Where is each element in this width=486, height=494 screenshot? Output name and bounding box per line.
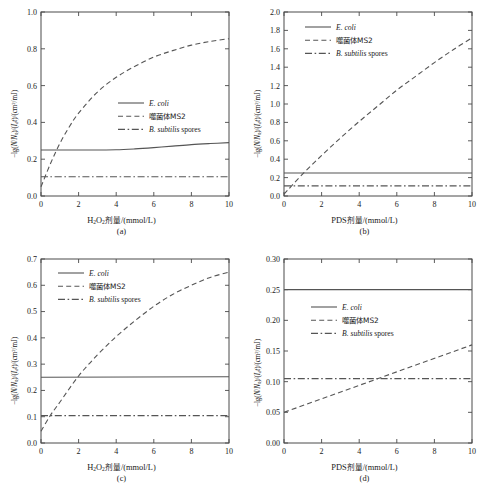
- y-tick-label: 0.05: [266, 408, 280, 417]
- x-tick-label: 8: [432, 447, 436, 456]
- series-line-ecoli: [41, 377, 229, 378]
- y-tick-label: 0.0: [270, 192, 280, 201]
- x-tick-label: 6: [152, 200, 156, 209]
- subplot-a: 02468100.00.20.40.60.81.0E. coli噬菌体MS2B.…: [0, 0, 243, 247]
- legend-label-spores: B. subtilis spores: [89, 295, 141, 304]
- x-tick-label: 2: [320, 447, 324, 456]
- y-tick-label: 0.8: [27, 45, 37, 54]
- x-tick-label: 6: [395, 447, 399, 456]
- y-tick-label: 0.2: [27, 155, 37, 164]
- y-tick-label: 0.3: [27, 360, 37, 369]
- legend-label-ecoli: E. coli: [341, 303, 362, 312]
- y-tick-label: 0.6: [27, 281, 37, 290]
- y-tick-label: 0.2: [27, 386, 37, 395]
- x-axis-label-a: H2O2剂量/(mmol/L): [0, 214, 243, 225]
- y-tick-label: 0.10: [266, 378, 280, 387]
- y-tick-label: 0.6: [27, 82, 37, 91]
- plot-area-b: 02468100.00.20.40.60.81.01.21.41.61.82.0…: [243, 0, 486, 247]
- y-axis-label-b: −lg(N/N0)/(Idt)/(cm2/mJ): [254, 90, 262, 158]
- x-tick-label: 4: [114, 200, 118, 209]
- y-axis-label-d: −lg(N/N0)/(Idt)/(cm2/mJ): [254, 339, 262, 407]
- y-tick-label: 0.00: [266, 439, 280, 448]
- y-tick-label: 0.1: [27, 413, 37, 422]
- panel-label-b: (b): [243, 227, 486, 236]
- y-tick-label: 2.0: [270, 8, 280, 17]
- legend-label-spores: B. subtilis spores: [342, 329, 394, 338]
- y-axis-label-c: −lg(N/N0)/(Idt)/(cm2/mJ): [11, 337, 19, 405]
- x-tick-label: 8: [189, 200, 193, 209]
- legend-label-spores: B. subtilis spores: [336, 49, 388, 58]
- legend-label-ms2: 噬菌体MS2: [149, 112, 186, 121]
- y-tick-label: 1.8: [270, 26, 280, 35]
- y-tick-label: 0.2: [270, 174, 280, 183]
- y-tick-label: 1.0: [270, 100, 280, 109]
- x-tick-label: 8: [189, 447, 193, 456]
- x-tick-label: 4: [114, 447, 118, 456]
- x-tick-label: 10: [225, 200, 233, 209]
- legend-label-spores: B. subtilis spores: [149, 125, 201, 134]
- y-tick-label: 0.0: [27, 192, 37, 201]
- y-tick-label: 0.20: [266, 316, 280, 325]
- subplot-c: 02468100.00.10.20.30.40.50.60.7E. coli噬菌…: [0, 247, 243, 494]
- y-tick-label: 0.5: [27, 307, 37, 316]
- subplot-b: 02468100.00.20.40.60.81.01.21.41.61.82.0…: [243, 0, 486, 247]
- y-tick-label: 0.4: [27, 118, 37, 127]
- x-tick-label: 0: [282, 200, 286, 209]
- y-tick-label: 0.30: [266, 255, 280, 264]
- x-tick-label: 10: [468, 200, 476, 209]
- x-axis-label-d: PDS剂量/(mmol/L): [243, 461, 486, 472]
- panel-label-a: (a): [0, 227, 243, 236]
- y-tick-label: 1.0: [27, 8, 37, 17]
- plot-area-c: 02468100.00.10.20.30.40.50.60.7E. coli噬菌…: [0, 247, 243, 494]
- legend-label-ms2: 噬菌体MS2: [342, 316, 379, 325]
- panel-label-d: (d): [243, 474, 486, 483]
- y-tick-label: 1.2: [270, 82, 280, 91]
- y-tick-label: 0.25: [266, 286, 280, 295]
- x-tick-label: 4: [357, 447, 361, 456]
- y-axis-label-a: −lg(N/N0)/(Idt)/(cm2/mJ): [11, 90, 19, 158]
- x-tick-label: 2: [77, 200, 81, 209]
- panel-label-c: (c): [0, 474, 243, 483]
- x-tick-label: 8: [432, 200, 436, 209]
- legend-label-ms2: 噬菌体MS2: [336, 36, 373, 45]
- figure-container: 02468100.00.20.40.60.81.0E. coli噬菌体MS2B.…: [0, 0, 486, 494]
- x-tick-label: 10: [225, 447, 233, 456]
- y-tick-label: 0.7: [27, 255, 37, 264]
- y-tick-label: 0.0: [27, 439, 37, 448]
- series-line-ecoli: [41, 143, 229, 150]
- x-tick-label: 2: [77, 447, 81, 456]
- series-line-ms2: [41, 39, 229, 187]
- y-tick-label: 0.4: [270, 155, 280, 164]
- legend-label-ms2: 噬菌体MS2: [89, 282, 126, 291]
- legend-label-ecoli: E. coli: [88, 269, 109, 278]
- x-axis-label-c: H2O2剂量/(mmol/L): [0, 461, 243, 472]
- y-tick-label: 1.6: [270, 45, 280, 54]
- x-tick-label: 0: [39, 447, 43, 456]
- x-tick-label: 6: [395, 200, 399, 209]
- x-tick-label: 4: [357, 200, 361, 209]
- subplot-d: 02468100.000.050.100.150.200.250.30E. co…: [243, 247, 486, 494]
- y-tick-label: 1.4: [270, 63, 280, 72]
- legend-label-ecoli: E. coli: [148, 99, 169, 108]
- x-tick-label: 10: [468, 447, 476, 456]
- x-tick-label: 2: [320, 200, 324, 209]
- series-line-ms2: [284, 38, 472, 194]
- x-tick-label: 0: [39, 200, 43, 209]
- x-tick-label: 6: [152, 447, 156, 456]
- plot-area-d: 02468100.000.050.100.150.200.250.30E. co…: [243, 247, 486, 494]
- legend-label-ecoli: E. coli: [335, 23, 356, 32]
- x-axis-label-b: PDS剂量/(mmol/L): [243, 214, 486, 225]
- plot-area-a: 02468100.00.20.40.60.81.0E. coli噬菌体MS2B.…: [0, 0, 243, 247]
- x-tick-label: 0: [282, 447, 286, 456]
- y-tick-label: 0.4: [27, 334, 37, 343]
- y-tick-label: 0.8: [270, 118, 280, 127]
- y-tick-label: 0.15: [266, 347, 280, 356]
- y-tick-label: 0.6: [270, 137, 280, 146]
